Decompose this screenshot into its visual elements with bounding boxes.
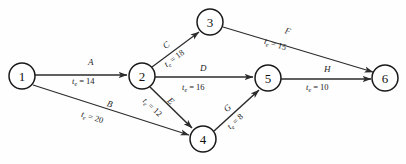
node-1-label: 1: [19, 69, 26, 84]
edge-label-A-activity: A: [88, 57, 94, 67]
nodes-group: 1 2 3 4 5 6: [9, 9, 398, 152]
node-4-label: 4: [200, 132, 207, 147]
duration-value-H: = 10: [313, 82, 328, 92]
edge-label-H-duration: te = 10: [306, 82, 329, 93]
edge-label-H-activity: H: [324, 64, 331, 74]
node-5[interactable]: 5: [255, 65, 281, 91]
node-2[interactable]: 2: [129, 63, 155, 89]
node-4[interactable]: 4: [190, 126, 216, 152]
duration-subscript-A: e: [74, 81, 77, 87]
edge-label-A-duration: te = 14: [72, 76, 95, 87]
node-3[interactable]: 3: [197, 9, 223, 35]
edge-label-D-activity: D: [200, 63, 207, 73]
node-6-label: 6: [382, 71, 389, 86]
duration-subscript-D: e: [184, 87, 187, 93]
node-5-label: 5: [265, 71, 272, 86]
node-2-label: 2: [139, 69, 146, 84]
node-6[interactable]: 6: [372, 65, 398, 91]
edge-label-D-duration: te = 16: [182, 82, 205, 93]
node-1[interactable]: 1: [9, 63, 35, 89]
duration-value-A: = 14: [79, 76, 94, 86]
edge-F-3-to-6: [223, 27, 373, 72]
node-3-label: 3: [207, 15, 214, 30]
activity-network-diagram: 1 2 3 4 5 6 A: [0, 0, 406, 164]
edge-B-1-to-4: [33, 85, 189, 135]
duration-value-D: = 16: [189, 82, 204, 92]
duration-subscript-H: e: [308, 87, 311, 93]
